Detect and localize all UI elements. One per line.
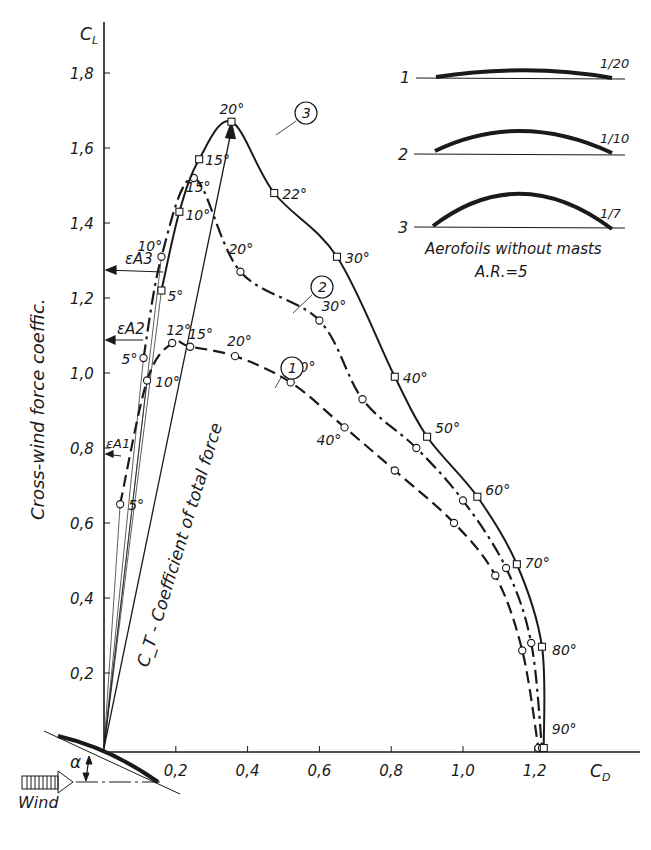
angle-label: 10° bbox=[137, 238, 162, 254]
data-point bbox=[117, 501, 124, 508]
y-tick-label: 0,2 bbox=[70, 665, 94, 683]
data-point bbox=[459, 497, 466, 504]
y-tick-label: 1,2 bbox=[70, 290, 94, 308]
data-point bbox=[271, 190, 278, 197]
angle-label: 70° bbox=[525, 555, 550, 571]
data-point bbox=[540, 745, 547, 752]
angle-label: 50° bbox=[435, 420, 460, 436]
profile-3-camber: 1/7 bbox=[600, 206, 622, 221]
data-point bbox=[341, 424, 348, 431]
data-point bbox=[158, 287, 165, 294]
angle-label: 60° bbox=[485, 482, 510, 498]
wind-arrow-icon bbox=[22, 771, 73, 793]
data-point bbox=[528, 639, 535, 646]
profile-3-id: 3 bbox=[398, 218, 408, 237]
data-point bbox=[359, 396, 366, 403]
x-tick-label: 0,2 bbox=[164, 762, 188, 780]
data-point bbox=[538, 643, 545, 650]
profile-1-camber: 1/20 bbox=[600, 56, 629, 71]
y-tick-label: 1,8 bbox=[70, 65, 94, 83]
data-point bbox=[391, 467, 398, 474]
svg-text:3: 3 bbox=[302, 105, 311, 121]
x-tick-label: 0,4 bbox=[236, 762, 260, 780]
y-tick-label: 0,4 bbox=[70, 590, 94, 608]
x-tick-label: 1,2 bbox=[523, 762, 547, 780]
x-tick-label: 0,8 bbox=[379, 762, 403, 780]
angle-label: 10° bbox=[155, 374, 180, 390]
x-axis-symbol: CD bbox=[590, 761, 610, 784]
data-point bbox=[424, 433, 431, 440]
series-id-badge: 3 bbox=[276, 102, 317, 135]
profile-2-camber: 1/10 bbox=[600, 131, 629, 146]
x-axis-ticks: 0,20,40,60,81,01,2 bbox=[164, 746, 547, 780]
angle-label: 20° bbox=[227, 333, 252, 349]
angle-label: 30° bbox=[345, 250, 370, 266]
data-point bbox=[519, 647, 526, 654]
alpha-label: α bbox=[70, 752, 81, 772]
angle-label: 30° bbox=[321, 298, 346, 314]
y-axis-symbol: CL bbox=[80, 24, 98, 47]
angle-label: 20° bbox=[219, 101, 244, 117]
data-point bbox=[333, 253, 340, 260]
epsilon-a2-label: εA2 bbox=[117, 320, 145, 338]
data-point bbox=[187, 343, 194, 350]
curves: 5°10°12°15°20°30°40°5°10°15°20°30°5°10°1… bbox=[117, 101, 577, 752]
total-force-label: C_T - Coefficient of total force bbox=[133, 420, 227, 669]
data-point bbox=[169, 339, 176, 346]
angle-label: 80° bbox=[552, 642, 577, 658]
polar-chart: 0,20,40,60,81,01,2 0,20,40,60,81,01,21,4… bbox=[0, 0, 651, 850]
epsilon-a1-label: εA1 bbox=[106, 436, 130, 451]
angle-label: 15° bbox=[205, 152, 230, 168]
profile-2-id: 2 bbox=[398, 145, 408, 164]
wind-diagram bbox=[22, 731, 180, 794]
profile-sketches: 1 2 3 1/20 1/10 1/7 Aerofoils without ma… bbox=[398, 56, 629, 281]
angle-label: 22° bbox=[282, 186, 307, 202]
data-point bbox=[237, 268, 244, 275]
profile-1-id: 1 bbox=[400, 68, 410, 87]
data-point bbox=[492, 572, 499, 579]
data-point bbox=[391, 373, 398, 380]
data-point bbox=[474, 493, 481, 500]
data-point bbox=[158, 253, 165, 260]
angle-label: 20° bbox=[228, 241, 253, 257]
svg-text:1: 1 bbox=[288, 360, 297, 376]
angle-label: 15° bbox=[186, 179, 211, 195]
aspect-ratio-label: A.R.=5 bbox=[474, 263, 528, 281]
y-tick-label: 0,8 bbox=[70, 440, 94, 458]
angle-label: 40° bbox=[403, 370, 428, 386]
data-point bbox=[316, 317, 323, 324]
data-point bbox=[231, 353, 238, 360]
y-axis-label: Cross-wind force coeffic. bbox=[27, 298, 48, 520]
angle-label: 15° bbox=[188, 326, 213, 342]
y-tick-label: 0,6 bbox=[70, 515, 94, 533]
data-point bbox=[413, 444, 420, 451]
y-tick-label: 1,0 bbox=[70, 365, 94, 383]
data-point bbox=[502, 564, 509, 571]
data-point bbox=[176, 208, 183, 215]
angle-label: 5° bbox=[167, 288, 183, 304]
y-tick-label: 1,4 bbox=[70, 215, 94, 233]
wind-label: Wind bbox=[18, 793, 59, 812]
angle-label: 5° bbox=[128, 497, 144, 513]
angle-label: 40° bbox=[317, 432, 342, 448]
data-point bbox=[143, 377, 150, 384]
angle-label: 90° bbox=[552, 721, 577, 737]
legend-title: Aerofoils without masts bbox=[424, 240, 602, 258]
x-tick-label: 1,0 bbox=[451, 762, 475, 780]
data-point bbox=[140, 354, 147, 361]
data-point bbox=[228, 118, 235, 125]
x-tick-label: 0,6 bbox=[307, 762, 331, 780]
y-tick-label: 1,6 bbox=[70, 140, 94, 158]
data-point bbox=[287, 379, 294, 386]
data-point bbox=[513, 561, 520, 568]
angle-label: 5° bbox=[121, 351, 137, 367]
data-point bbox=[196, 156, 203, 163]
angle-label: 10° bbox=[185, 207, 210, 223]
svg-text:2: 2 bbox=[318, 279, 327, 295]
data-point bbox=[450, 519, 457, 526]
